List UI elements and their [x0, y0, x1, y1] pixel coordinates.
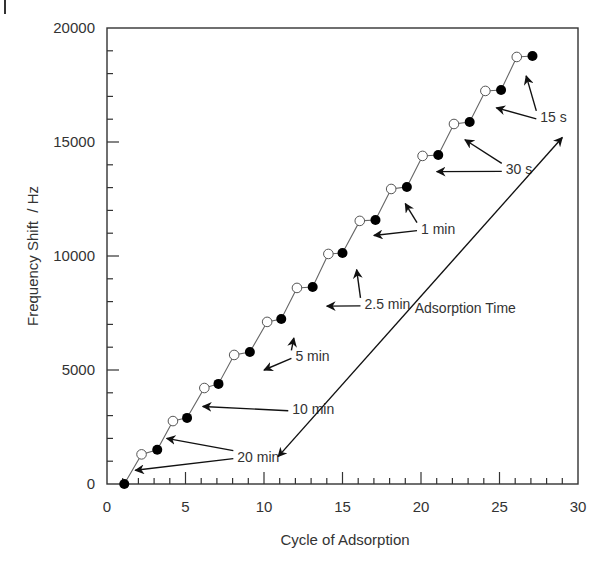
open-marker — [200, 383, 210, 393]
open-marker — [229, 350, 239, 360]
open-marker — [137, 450, 147, 460]
chart: 05101520253005000100001500020000 20 min1… — [0, 0, 606, 573]
x-tick-label: 30 — [570, 498, 587, 515]
annotation-label: Adsorption Time — [415, 300, 516, 316]
y-tick-label: 0 — [87, 475, 95, 492]
open-marker — [292, 283, 302, 293]
annotation-arrow — [357, 270, 361, 298]
filled-marker — [433, 150, 443, 160]
annotations: 20 min10 min5 min2.5 min1 min30 s15 sAds… — [135, 76, 567, 470]
annotation-arrow — [374, 231, 417, 236]
filled-marker — [152, 445, 162, 455]
filled-marker — [496, 85, 506, 95]
open-marker — [512, 52, 522, 62]
filled-marker — [338, 248, 348, 258]
annotation-arrow — [167, 438, 234, 450]
x-tick-label: 20 — [413, 498, 430, 515]
annotation-arrow — [203, 406, 288, 410]
annotation-label: 15 s — [540, 109, 566, 125]
annotation-arrow — [496, 108, 536, 119]
x-tick-label: 15 — [334, 498, 351, 515]
filled-marker — [527, 51, 537, 61]
annotation-label: 5 min — [295, 348, 329, 364]
y-tick-label: 15000 — [53, 133, 95, 150]
open-marker — [481, 86, 491, 96]
annotation-arrow — [291, 338, 293, 350]
filled-marker — [276, 314, 286, 324]
x-tick-label: 0 — [103, 498, 111, 515]
annotation-arrow — [135, 459, 233, 471]
open-marker — [449, 119, 459, 129]
open-marker — [262, 317, 272, 327]
y-axis-label: Frequency Shift / Hz — [24, 186, 41, 326]
y-tick-label: 20000 — [53, 19, 95, 36]
open-marker — [386, 184, 396, 194]
annotation-arrow — [264, 358, 291, 370]
x-tick-label: 5 — [181, 498, 189, 515]
y-tick-label: 5000 — [62, 361, 95, 378]
annotation-arrow — [465, 140, 502, 164]
y-tick-label: 10000 — [53, 247, 95, 264]
filled-marker — [370, 215, 380, 225]
filled-marker — [308, 282, 318, 292]
annotation-label: 20 min — [237, 449, 279, 465]
filled-marker — [119, 479, 129, 489]
x-tick-label: 25 — [491, 498, 508, 515]
filled-marker — [245, 347, 255, 357]
open-marker — [324, 249, 334, 259]
annotation-label: 10 min — [292, 401, 334, 417]
annotation-label: 2.5 min — [364, 296, 410, 312]
open-marker — [418, 151, 428, 161]
filled-marker — [182, 413, 192, 423]
annotation-label: 1 min — [421, 221, 455, 237]
open-marker — [168, 416, 178, 426]
open-marker — [355, 216, 365, 226]
tick-labels: 05101520253005000100001500020000 — [53, 19, 586, 515]
filled-marker — [465, 117, 475, 127]
filled-marker — [402, 182, 412, 192]
data-series — [119, 51, 537, 489]
x-axis-label: Cycle of Adsorption — [280, 531, 409, 548]
annotation-arrow — [405, 204, 417, 223]
x-tick-label: 10 — [256, 498, 273, 515]
annotation-arrow — [526, 76, 536, 111]
adsorption-time-double-arrow — [278, 137, 562, 456]
filled-marker — [213, 379, 223, 389]
